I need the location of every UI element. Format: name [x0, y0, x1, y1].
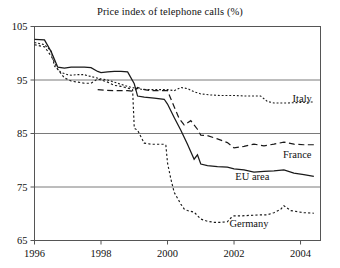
x-tick-label-1998: 1998 [91, 248, 112, 259]
y-tick-label-75: 75 [17, 182, 28, 193]
x-tick-label-2004: 2004 [290, 248, 312, 259]
series-label-eu-area: EU area [235, 171, 269, 182]
y-tick-label-85: 85 [17, 128, 28, 139]
y-axis-tick-labels: 65758595105 [12, 21, 28, 246]
axis-tickmarks [31, 27, 301, 245]
x-axis-tick-labels: 19961998200020022004 [24, 248, 312, 259]
chart-figure: Price index of telephone calls (%) 65758… [0, 0, 340, 268]
series-line-france [98, 87, 314, 147]
series-lines-group [35, 39, 314, 222]
y-tick-label-65: 65 [17, 235, 28, 246]
series-line-italy [35, 43, 314, 103]
x-tick-label-1996: 1996 [24, 248, 45, 259]
series-label-germany: Germany [229, 218, 269, 229]
y-tick-label-105: 105 [12, 21, 28, 32]
line-chart-plot: 65758595105 19961998200020022004 ItalyFr… [0, 0, 340, 268]
series-labels-group: ItalyFranceEU areaGermany [229, 93, 312, 229]
x-tick-label-2000: 2000 [157, 248, 178, 259]
x-tick-label-2002: 2002 [224, 248, 245, 259]
series-label-france: France [283, 149, 312, 160]
y-tick-label-95: 95 [17, 75, 28, 86]
series-label-italy: Italy [293, 93, 313, 104]
